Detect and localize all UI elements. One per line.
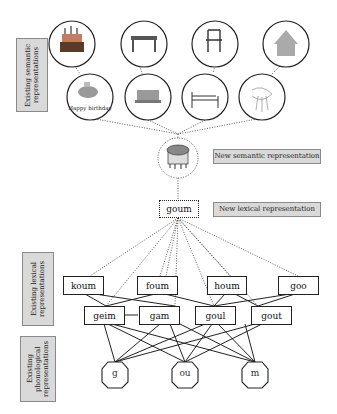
lexical-node: goo [278, 276, 319, 295]
birthday-caption: Happy birthday [68, 105, 112, 112]
lexical-node: foum [137, 276, 178, 295]
label-existing-phonological: Existing phonological representations [20, 336, 56, 402]
lexical-node: geim [84, 306, 125, 325]
lexical-node: gout [251, 306, 292, 325]
label-text: Existing lexical representations [30, 253, 46, 325]
new-word-node: goum [159, 200, 199, 218]
label-text: Existing semantic representations [24, 39, 40, 111]
lexical-node: houm [207, 276, 247, 295]
label-existing-semantic: Existing semantic representations [16, 38, 48, 112]
label-existing-lexical: Existing lexical representations [22, 252, 54, 326]
phoneme-node: ou [172, 368, 198, 378]
cradle-icon [135, 90, 161, 103]
lexical-node: gam [139, 306, 180, 325]
phoneme-node: m [242, 368, 268, 378]
label-text: New lexical representation [219, 205, 315, 213]
label-new-semantic: New semantic representation [213, 149, 321, 164]
label-new-lexical: New lexical representation [213, 202, 321, 217]
phoneme-node: g [102, 368, 128, 378]
lexical-node: goul [195, 306, 236, 325]
label-text: Existing phonological representations [26, 337, 50, 401]
label-text: New semantic representation [214, 152, 319, 160]
lexical-node: koum [63, 276, 104, 295]
